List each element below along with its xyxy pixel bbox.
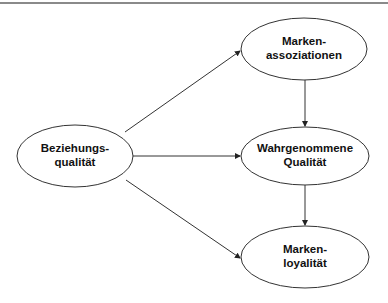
node-label-line2: assoziationen xyxy=(266,49,342,61)
node-label-line1: Marken- xyxy=(282,35,326,47)
diagram-canvas: Beziehungs- qualität Marken- assoziation… xyxy=(0,0,388,303)
node-beziehungsqualitaet: Beziehungs- qualität xyxy=(17,125,133,187)
node-label-line2: loyalität xyxy=(283,257,327,269)
node-markenloyalitaet: Marken- loyalität xyxy=(241,226,369,288)
node-label-line2: qualität xyxy=(55,156,96,168)
edge-beziehung-to-loyalitaet xyxy=(126,180,240,258)
node-label-line2: Qualität xyxy=(284,156,327,168)
edge-beziehung-to-assoziationen xyxy=(125,51,240,132)
node-wahrgenommene-qualitaet: Wahrgenommene Qualität xyxy=(241,127,369,185)
node-label-line1: Marken- xyxy=(283,243,327,255)
node-label-line1: Wahrgenommene xyxy=(257,142,353,154)
node-markenassoziationen: Marken- assoziationen xyxy=(241,18,367,80)
node-label-line1: Beziehungs- xyxy=(41,142,110,154)
